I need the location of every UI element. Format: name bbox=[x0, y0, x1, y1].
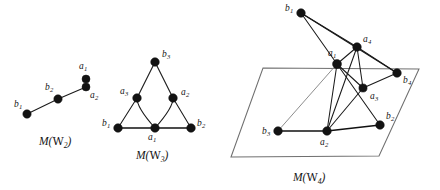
edge-b3-a3 bbox=[137, 62, 155, 98]
edge-a2-a1 bbox=[155, 98, 173, 128]
vertex-a2[interactable] bbox=[82, 83, 90, 91]
edge-a3-b1 bbox=[118, 98, 137, 128]
edge-b2-a2 bbox=[58, 87, 86, 99]
vertex-label-a2: a2 bbox=[320, 138, 328, 148]
vertex-b2[interactable] bbox=[187, 124, 196, 133]
vertex-a1[interactable] bbox=[333, 60, 342, 69]
vertex-label-b1: b1 bbox=[14, 100, 22, 110]
vertex-b1[interactable] bbox=[23, 110, 31, 118]
vertex-b1[interactable] bbox=[114, 124, 123, 133]
vertex-label-a2: a2 bbox=[90, 91, 98, 101]
vertex-b2[interactable] bbox=[376, 121, 385, 130]
vertex-a3[interactable] bbox=[133, 94, 142, 103]
vertex-label-a1: a1 bbox=[148, 133, 156, 143]
edge-a4-a3 bbox=[357, 47, 363, 88]
vertex-b4[interactable] bbox=[393, 69, 402, 78]
edge-b3-a2 bbox=[155, 62, 173, 98]
vertex-b1[interactable] bbox=[297, 9, 306, 18]
vertex-label-b2: b2 bbox=[197, 119, 205, 129]
graph-m-w4 bbox=[231, 9, 419, 157]
vertex-a3[interactable] bbox=[359, 84, 367, 92]
vertex-label-a1: a1 bbox=[79, 62, 87, 72]
graph-m-w2 bbox=[23, 75, 90, 118]
vertex-b3[interactable] bbox=[151, 58, 160, 67]
vertex-label-b2: b2 bbox=[386, 112, 394, 122]
vertex-b2[interactable] bbox=[54, 95, 62, 103]
edge-a3-a1 bbox=[137, 98, 155, 128]
vertex-label-b4: b4 bbox=[403, 76, 411, 86]
vertex-label-a2: a2 bbox=[181, 88, 189, 98]
vertex-label-b2: b2 bbox=[45, 83, 53, 93]
vertex-label-a3: a3 bbox=[120, 87, 128, 97]
caption-m-w4: M(W4) bbox=[293, 172, 325, 184]
vertex-label-a4: a4 bbox=[363, 35, 371, 45]
vertex-a2[interactable] bbox=[169, 94, 178, 103]
vertex-a1[interactable] bbox=[82, 75, 90, 83]
edge-b1-b2 bbox=[27, 99, 58, 114]
caption-m-w3: M(W3) bbox=[136, 150, 168, 162]
vertex-label-b1: b1 bbox=[102, 119, 110, 129]
vertex-label-b3: b3 bbox=[262, 127, 270, 137]
edge-a2-b2 bbox=[173, 98, 191, 128]
vertex-b3[interactable] bbox=[274, 127, 283, 136]
vertex-a1[interactable] bbox=[151, 124, 160, 133]
edge-a3-b4 bbox=[363, 73, 397, 88]
vertex-label-b3: b3 bbox=[162, 50, 170, 60]
vertex-a4[interactable] bbox=[353, 43, 362, 52]
vertex-a2[interactable] bbox=[323, 127, 332, 136]
edge-a2-b2 bbox=[327, 125, 380, 131]
vertex-label-b1: b1 bbox=[285, 4, 293, 14]
figure-graphs-mw2-mw3-mw4: b1b2a1a2M(W2)b3a3a2b1a1b2M(W3)b1a4a1b4a3… bbox=[0, 0, 440, 190]
vertex-label-a1: a1 bbox=[328, 49, 336, 59]
vertex-label-a3: a3 bbox=[370, 92, 378, 102]
caption-m-w2: M(W2) bbox=[39, 136, 71, 148]
